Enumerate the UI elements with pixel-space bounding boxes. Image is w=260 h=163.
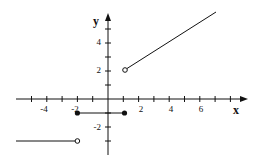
y-tick-label: -2 — [94, 122, 102, 132]
x-tick-label: 4 — [169, 104, 174, 114]
x-tick-label: 2 — [139, 104, 144, 114]
open-point — [75, 139, 80, 144]
closed-point — [75, 110, 80, 115]
y-axis — [105, 13, 111, 155]
y-tick-label: 4 — [97, 37, 102, 47]
x-axis — [16, 96, 248, 102]
x-tick-label: -4 — [40, 104, 48, 114]
piecewise-function-graph: -4 -2 2 4 6 4 2 -2 x y — [0, 0, 260, 163]
x-axis-label: x — [233, 103, 239, 117]
y-axis-arrow-icon — [105, 13, 111, 21]
open-point — [123, 68, 128, 73]
x-axis-arrow-icon — [240, 96, 248, 102]
y-axis-label: y — [93, 14, 99, 28]
piece-1 — [16, 139, 80, 144]
closed-point — [122, 110, 127, 115]
x-tick-label: 6 — [199, 104, 204, 114]
piece-2 — [75, 110, 127, 115]
piece-3 — [123, 12, 216, 72]
y-tick-label: 2 — [97, 65, 102, 75]
